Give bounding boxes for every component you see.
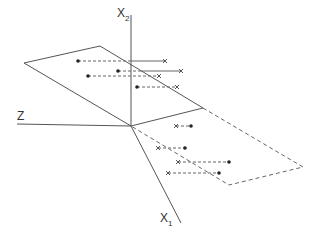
upper-pair-3 bbox=[86, 74, 161, 78]
upper-pair-2 bbox=[116, 69, 183, 73]
x1-axis-subscript: 1 bbox=[168, 219, 173, 228]
point-dot bbox=[76, 59, 80, 63]
lower-pair-4 bbox=[166, 171, 221, 175]
point-dot bbox=[86, 74, 90, 78]
x2-axis-label: X bbox=[117, 6, 125, 20]
point-dot bbox=[217, 171, 221, 175]
point-dot bbox=[189, 124, 193, 128]
x2-axis-subscript: 2 bbox=[125, 14, 130, 23]
point-dot bbox=[135, 85, 139, 89]
projection-cross bbox=[175, 85, 179, 89]
lower-pair-2 bbox=[156, 146, 187, 150]
lower-pair-1 bbox=[174, 124, 193, 128]
lower-pair-3 bbox=[176, 160, 231, 164]
z-axis-label: Z bbox=[17, 109, 24, 123]
projection-cross bbox=[157, 74, 161, 78]
diagram-canvas: X 2 Z X 1 bbox=[0, 0, 319, 243]
upper-pair-4 bbox=[135, 85, 179, 89]
point-dot bbox=[116, 69, 120, 73]
upper-pair-1 bbox=[76, 59, 167, 63]
x1-axis bbox=[131, 126, 181, 223]
x1-axis-label: X bbox=[160, 211, 168, 225]
point-dot bbox=[227, 160, 231, 164]
z-axis bbox=[17, 124, 131, 126]
point-dot bbox=[183, 146, 187, 150]
